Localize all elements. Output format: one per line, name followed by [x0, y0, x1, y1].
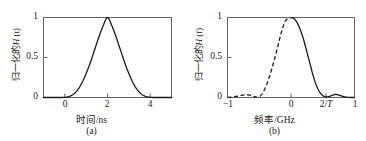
- plot-a-yticklabel-1: 1: [24, 11, 38, 21]
- plot-a-xlabel: 时间/ns: [0, 112, 183, 126]
- plot-b-xticklabel-T: T: [327, 99, 332, 109]
- plot-b-xticklabel-2overT: 2/T: [316, 99, 336, 109]
- plot-a-xticklabel-2: 2: [97, 99, 117, 109]
- plot-b-xticklabel-1: 1: [345, 99, 365, 109]
- plot-a-ylabel-arg: (t): [11, 28, 21, 37]
- plot-a-xticklabel-0: 0: [55, 99, 75, 109]
- plot-a-yticklabel-05: 0.5: [19, 51, 38, 61]
- plot-a-ylabel-symbol: H: [11, 39, 21, 46]
- plot-b-yticklabel-05: 0.5: [203, 51, 222, 61]
- plot-b-curve-solid: [291, 18, 355, 98]
- plot-a-curve: [44, 18, 172, 98]
- panel-a: 归一化的H (t) 1 0.5 0 0 2 4 时间/ns (a): [0, 0, 183, 141]
- plot-a-xticklabel-4: 4: [140, 99, 160, 109]
- plot-a-caption: (a): [0, 126, 183, 136]
- plot-b-ylabel-symbol: H: [194, 39, 204, 46]
- plot-b-curve-dashed: [228, 18, 292, 98]
- panel-b: 归一化的H (f) 1 0.5 0 −1 0 2/T 1 频率/GHz (b): [183, 0, 366, 141]
- plot-b-xticklabel-0: 0: [281, 99, 301, 109]
- plot-b-xticklabel-neg1: −1: [218, 99, 238, 109]
- plot-b-yticklabel-1: 1: [208, 11, 222, 21]
- plot-a-yticklabel-0: 0: [24, 91, 38, 101]
- plot-a-frame: [44, 18, 172, 98]
- plot-b-caption: (b): [183, 126, 366, 136]
- figure-container: 归一化的H (t) 1 0.5 0 0 2 4 时间/ns (a): [0, 0, 366, 141]
- plot-b-xlabel: 频率/GHz: [183, 112, 366, 126]
- plot-b-frame: [228, 18, 355, 98]
- plot-b-ylabel-prefix: 归一化的: [194, 45, 204, 81]
- plot-b-ylabel-arg: (f): [194, 28, 204, 37]
